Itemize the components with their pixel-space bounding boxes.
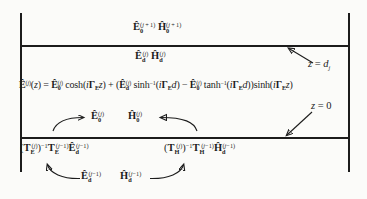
hd-previous-layer-label: Ĥd(j−1): [120, 170, 141, 182]
z-equals-dj-label: z = dj: [308, 58, 330, 70]
te-transfer-expression: (TE(j))−1TE(j−1)Êd(j−1): [20, 142, 89, 154]
arrow-ed-to-te-expression: [48, 165, 81, 179]
z-equals-zero-label: z = 0: [311, 100, 332, 112]
th-transfer-expression: (TH(j))−1TH(j−1)Ĥd(j−1): [164, 142, 235, 154]
bottom-interface-line: [21, 137, 349, 139]
arrow-to-e0-field: [53, 118, 83, 132]
ed-previous-layer-label: Êd(j−1): [81, 170, 101, 182]
layer-transfer-matrix-figure: Ê0(j + 1) Ĥ0(j + 1) Êd(j) Ĥd(j) z = dj Ê…: [0, 0, 367, 199]
top-interface-line: [21, 45, 349, 47]
fields-below-top-interface: Êd(j) Ĥd(j): [135, 50, 166, 62]
arrow-to-bottom-interface: [287, 112, 312, 135]
arrow-to-h0-field: [161, 118, 197, 132]
e0-field-label: Ê0(j): [91, 110, 104, 122]
arrow-hd-to-th-expression: [150, 165, 184, 179]
h0-field-label: Ĥ0(j): [128, 110, 142, 122]
fields-above-top-interface: Ê0(j + 1) Ĥ0(j + 1): [133, 21, 181, 33]
right-border-line: [348, 13, 350, 172]
field-equation: Ê(j)(z) = Ê0(j) cosh(iΓEz) + (Êd(j) sinh…: [19, 79, 293, 90]
